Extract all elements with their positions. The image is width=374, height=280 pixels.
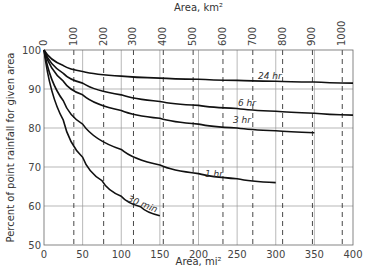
x2-tick-label: 400	[157, 27, 168, 46]
curve-label: 1 hr	[205, 169, 224, 179]
x2-tick-label: 900	[306, 27, 317, 46]
curve-label: 24 hr	[258, 71, 283, 81]
x2-tick-label: 200	[98, 27, 109, 46]
x-tick-label: 150	[150, 249, 169, 260]
x2-tick-label: 100	[68, 27, 79, 46]
x2-tick-label: 500	[187, 27, 198, 46]
y-tick-label: 80	[28, 123, 41, 134]
x-tick-label: 50	[76, 249, 89, 260]
x-tick-label: 400	[343, 249, 362, 260]
curve-label: 3 hr	[233, 115, 252, 125]
y-axis-title: Percent of point rainfall for given area	[5, 53, 16, 243]
x-tick-label: 350	[305, 249, 324, 260]
x-tick-label: 0	[41, 249, 47, 260]
x-tick-label: 100	[112, 249, 131, 260]
x-axis-title: Area, mi²	[176, 256, 222, 267]
x-tick-label: 300	[266, 249, 285, 260]
curve-3-hr	[44, 50, 314, 133]
x2-tick-label: 600	[217, 27, 228, 46]
x2-tick-label: 300	[127, 27, 138, 46]
x2-tick-label: 800	[277, 27, 288, 46]
curve-label: 6 hr	[238, 98, 257, 108]
y-tick-label: 70	[28, 162, 41, 173]
x-tick-label: 250	[228, 249, 247, 260]
chart: 0100200300400500600700800900100005010015…	[0, 0, 374, 280]
x2-tick-label: 700	[247, 27, 258, 46]
curve-label: 30 min	[126, 194, 159, 215]
y-tick-label: 90	[28, 84, 41, 95]
x2-axis-title: Area, km²	[174, 2, 223, 13]
y-tick-label: 100	[22, 45, 41, 56]
y-tick-label: 60	[28, 201, 41, 212]
y-tick-label: 50	[28, 240, 41, 251]
x2-tick-label: 1000	[336, 21, 347, 46]
